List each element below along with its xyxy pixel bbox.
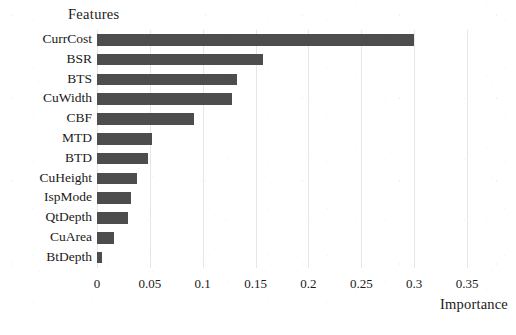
y-axis-label: MTD bbox=[0, 131, 92, 145]
y-axis-label: CBF bbox=[0, 111, 92, 125]
bar bbox=[97, 212, 128, 224]
bar bbox=[97, 232, 114, 244]
bar bbox=[97, 54, 263, 66]
x-axis-tick-label: 0.05 bbox=[138, 276, 161, 292]
y-axis-label: BtDepth bbox=[0, 250, 92, 264]
y-axis-label: CuWidth bbox=[0, 91, 92, 105]
bar-row bbox=[97, 89, 467, 109]
bar bbox=[97, 133, 152, 145]
x-axis-tick-label: 0.1 bbox=[195, 276, 211, 292]
feature-importance-chart: Features CurrCostBSRBTSCuWidthCBFMTDBTDC… bbox=[0, 0, 516, 335]
y-axis-label: BTD bbox=[0, 151, 92, 165]
bar-series bbox=[97, 30, 467, 268]
bar-row bbox=[97, 228, 467, 248]
bar-row bbox=[97, 169, 467, 189]
bar-row bbox=[97, 109, 467, 129]
bar-row bbox=[97, 70, 467, 90]
bar-row bbox=[97, 188, 467, 208]
x-axis-tick-label: 0.35 bbox=[456, 276, 479, 292]
bar-row bbox=[97, 248, 467, 268]
y-axis-labels: CurrCostBSRBTSCuWidthCBFMTDBTDCuHeightIs… bbox=[0, 30, 92, 268]
x-axis-tick-label: 0.25 bbox=[350, 276, 373, 292]
y-axis-label: CuHeight bbox=[0, 171, 92, 185]
bar bbox=[97, 173, 137, 185]
x-axis-tick-label: 0.2 bbox=[300, 276, 316, 292]
y-axis-label: IspMode bbox=[0, 190, 92, 204]
bar-row bbox=[97, 30, 467, 50]
bar-row bbox=[97, 50, 467, 70]
bar bbox=[97, 113, 194, 125]
bar-row bbox=[97, 129, 467, 149]
bar bbox=[97, 153, 148, 165]
bar-row bbox=[97, 149, 467, 169]
plot-area bbox=[97, 30, 467, 268]
bar bbox=[97, 192, 131, 204]
bar bbox=[97, 252, 102, 264]
y-axis-label: CuArea bbox=[0, 230, 92, 244]
x-axis-ticks: 00.050.10.150.20.250.30.35 bbox=[97, 276, 467, 296]
y-axis-label: BSR bbox=[0, 52, 92, 66]
bar bbox=[97, 93, 232, 105]
x-axis-tick-label: 0.15 bbox=[244, 276, 267, 292]
x-axis-tick-label: 0.3 bbox=[406, 276, 422, 292]
gridline bbox=[467, 30, 468, 268]
x-axis-tick-label: 0 bbox=[94, 276, 101, 292]
bar bbox=[97, 34, 414, 46]
x-axis-title: Importance bbox=[0, 296, 508, 313]
bar bbox=[97, 74, 237, 86]
y-axis-label: CurrCost bbox=[0, 32, 92, 46]
bar-row bbox=[97, 208, 467, 228]
chart-title: Features bbox=[68, 6, 120, 23]
y-axis-label: QtDepth bbox=[0, 210, 92, 224]
y-axis-label: BTS bbox=[0, 72, 92, 86]
